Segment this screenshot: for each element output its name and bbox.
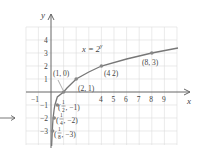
axes: [26, 14, 190, 148]
point-label-eighth-m3: ( 1 8 , −3): [54, 126, 76, 140]
svg-text:, −1): , −1): [66, 103, 81, 112]
x-tick-6: 6: [124, 95, 128, 104]
svg-text:(: (: [56, 116, 59, 125]
svg-text:, −2): , −2): [64, 116, 79, 125]
x-tick-4: 4: [99, 95, 103, 104]
y-tick-3: 3: [44, 49, 48, 58]
leader-line: [58, 80, 63, 90]
svg-text:, −3): , −3): [62, 130, 77, 139]
x-tick-9: 9: [162, 95, 166, 104]
x-tick-m1: −1: [31, 95, 39, 104]
point-label-half-m1: ( 1 2 , −1): [58, 99, 80, 113]
x-tick-5: 5: [112, 95, 116, 104]
point-label-4-2: (4 2): [104, 69, 119, 78]
point-label-2-1: (2, 1): [78, 84, 95, 93]
svg-text:(: (: [58, 103, 61, 112]
x-axis-label: x: [186, 96, 191, 106]
y-tick-4: 4: [44, 36, 48, 45]
point-label-8-3: (8, 3): [142, 58, 159, 67]
y-tick-2: 2: [44, 62, 48, 71]
y-tick-1: 1: [44, 75, 48, 84]
y-axis-label: y: [40, 10, 45, 20]
y-tick-m3: −3: [40, 127, 48, 136]
log-graph: y x 4 3 2 1 −1 −2 −3 −1 4 5 6 7 8 9 x = …: [0, 0, 203, 158]
svg-text:(: (: [54, 130, 57, 139]
pointer-arrow-icon: [0, 116, 15, 121]
point-label-quarter-m2: ( 1 4 , −2): [56, 112, 78, 126]
y-tick-m1: −1: [40, 101, 48, 110]
equation-label: x = 2y: [81, 43, 103, 54]
point-label-1-0: (1, 0): [53, 69, 70, 78]
x-tick-8: 8: [149, 95, 153, 104]
x-tick-7: 7: [137, 95, 141, 104]
y-tick-m2: −2: [40, 114, 48, 123]
